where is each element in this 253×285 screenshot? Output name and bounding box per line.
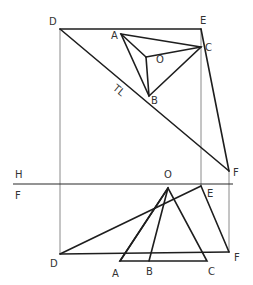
projector-lines — [60, 29, 229, 254]
label-front-f: F — [234, 252, 240, 263]
label-top-b: B — [151, 95, 158, 106]
top-view-labels: D E A C O B F TL — [49, 15, 239, 178]
label-front-a: A — [112, 268, 119, 279]
front-view — [60, 186, 229, 261]
projection-diagram: D E A C O B F TL H F O E D F A B C — [0, 0, 253, 285]
front-line-ob — [149, 188, 168, 261]
label-plane-f: F — [15, 190, 21, 201]
label-front-c: C — [208, 266, 215, 277]
label-top-a: A — [111, 30, 118, 41]
top-view — [60, 29, 229, 171]
label-top-c: C — [205, 42, 212, 53]
label-front-d: D — [50, 258, 58, 269]
label-top-d: D — [49, 16, 57, 27]
label-front-b: B — [146, 266, 153, 277]
front-line-oa — [120, 188, 168, 261]
label-top-f: F — [233, 167, 239, 178]
label-top-o: O — [156, 54, 164, 65]
front-line-ef — [201, 186, 229, 252]
label-plane-h: H — [15, 169, 23, 180]
label-front-o: O — [164, 169, 172, 180]
top-triangle-abc — [121, 34, 201, 96]
front-triangle-abc — [120, 188, 207, 261]
label-front-e: E — [207, 188, 213, 199]
label-top-e: E — [200, 15, 206, 26]
top-line-df-true-length — [60, 29, 229, 171]
